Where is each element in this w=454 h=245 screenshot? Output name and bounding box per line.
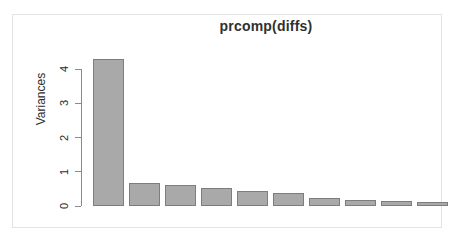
y-axis-tick	[75, 206, 81, 207]
page-title: prcomp(diffs)	[0, 18, 454, 34]
y-axis-label: Variances	[34, 54, 48, 144]
y-axis-tick	[75, 69, 81, 70]
bar-7[interactable]	[309, 198, 340, 206]
y-axis-line	[81, 69, 82, 206]
bar-9[interactable]	[381, 201, 412, 206]
bar-6[interactable]	[273, 193, 304, 206]
bar-5[interactable]	[237, 191, 268, 206]
bar-3[interactable]	[165, 185, 196, 206]
y-axis-tick-label: 1	[58, 164, 70, 180]
y-axis-tick-label: 4	[58, 61, 70, 77]
bar-1[interactable]	[93, 59, 124, 206]
screenshot-root: prcomp(diffs) Variances 01234	[0, 0, 454, 245]
y-axis-tick-label: 2	[58, 130, 70, 146]
y-axis-tick	[75, 171, 81, 172]
bar-2[interactable]	[129, 183, 160, 206]
y-axis-tick-label: 0	[58, 198, 70, 214]
bar-4[interactable]	[201, 188, 232, 206]
bar-8[interactable]	[345, 200, 376, 206]
bar-10[interactable]	[417, 202, 448, 206]
y-axis-tick-label: 3	[58, 95, 70, 111]
y-axis-tick	[75, 103, 81, 104]
y-axis-tick	[75, 137, 81, 138]
